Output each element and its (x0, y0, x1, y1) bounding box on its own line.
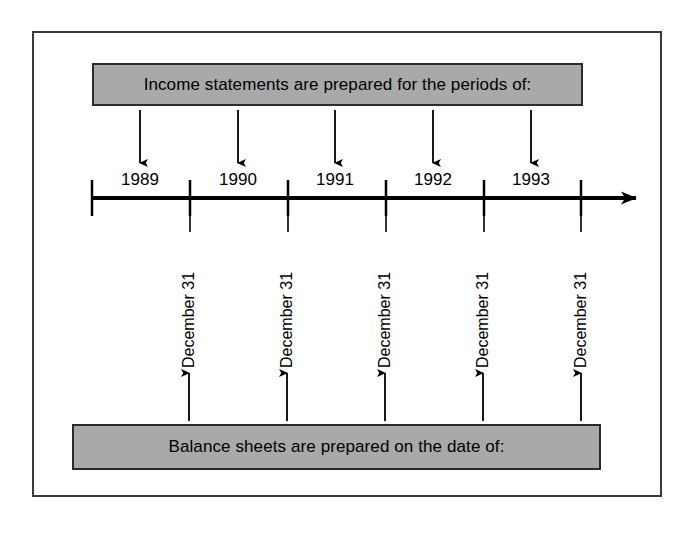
balance-date-label-3: December 31 (473, 238, 493, 368)
balance-date-label-1: December 31 (277, 238, 297, 368)
balance-date-label-0: December 31 (179, 238, 199, 368)
year-label-1993: 1993 (491, 170, 571, 190)
balance-date-label-2: December 31 (375, 238, 395, 368)
year-label-1989: 1989 (100, 170, 180, 190)
year-label-1991: 1991 (295, 170, 375, 190)
year-label-1990: 1990 (198, 170, 278, 190)
figure-canvas: Income statements are prepared for the p… (0, 0, 693, 534)
balance-date-label-4: December 31 (571, 238, 591, 368)
year-label-1992: 1992 (393, 170, 473, 190)
balance-sheet-caption-box: Balance sheets are prepared on the date … (72, 424, 601, 470)
balance-sheet-caption-text: Balance sheets are prepared on the date … (168, 437, 504, 457)
income-statement-caption-box: Income statements are prepared for the p… (92, 63, 583, 106)
income-statement-caption-text: Income statements are prepared for the p… (144, 75, 532, 95)
